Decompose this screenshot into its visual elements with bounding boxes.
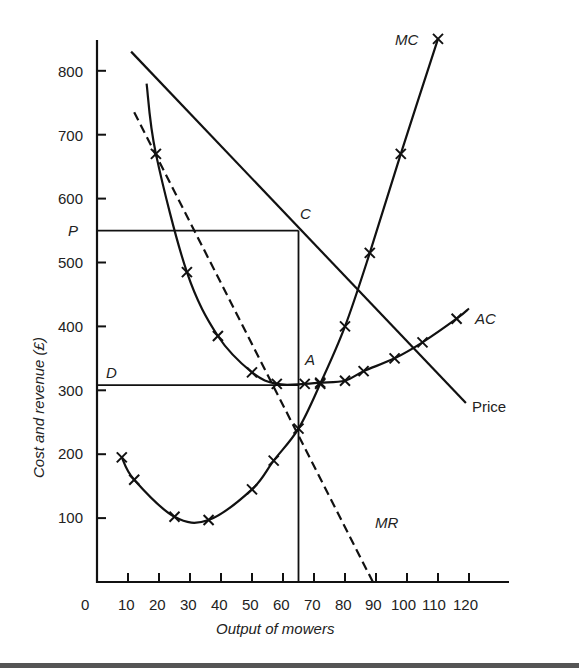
x-tick-label: 40 <box>211 596 228 613</box>
x-tick-label: 50 <box>242 596 259 613</box>
x-tick-labels: 0 10 20 30 40 50 60 70 80 90 100 110 120 <box>81 596 478 613</box>
y-tick-label: 300 <box>58 382 83 399</box>
x-tick-label: 0 <box>81 596 89 613</box>
x-tick-label: 110 <box>422 596 446 613</box>
x-tick-label: 60 <box>273 596 290 613</box>
page-bottom-rule <box>0 663 579 668</box>
ac-label: AC <box>474 310 496 327</box>
x-tick-label: 10 <box>118 596 135 613</box>
y-tick-labels: 100 200 300 400 500 600 700 800 <box>58 63 83 526</box>
y-axis-ticks <box>97 71 106 518</box>
a-label: A <box>304 351 315 368</box>
x-axis-title: Output of mowers <box>216 620 335 637</box>
c-label: C <box>300 205 311 222</box>
y-tick-label: 200 <box>58 445 83 462</box>
guide-lines <box>97 231 299 582</box>
x-tick-label: 80 <box>335 596 352 613</box>
y-tick-label: 800 <box>58 63 83 80</box>
y-tick-label: 500 <box>58 254 83 271</box>
d-label: D <box>106 364 117 381</box>
axes <box>96 40 509 583</box>
y-axis-title: Cost and revenue (£) <box>30 337 47 478</box>
x-tick-label: 70 <box>304 596 321 613</box>
y-tick-label: 700 <box>58 127 83 144</box>
p-label: P <box>68 222 78 239</box>
x-tick-label: 20 <box>149 596 166 613</box>
y-tick-label: 600 <box>58 190 83 207</box>
x-tick-label: 30 <box>180 596 197 613</box>
marginal-cost-curve <box>122 39 438 523</box>
y-tick-label: 100 <box>58 509 83 526</box>
x-tick-label: 120 <box>453 596 478 613</box>
price-label: Price <box>472 398 506 415</box>
y-tick-label: 400 <box>58 318 83 335</box>
x-tick-label: 100 <box>391 596 416 613</box>
mr-label: MR <box>375 514 398 531</box>
mc-label: MC <box>395 31 418 48</box>
cost-revenue-chart: MC AC MR Price P C D A 0 10 20 30 40 50 … <box>0 0 579 668</box>
x-tick-label: 90 <box>365 596 382 613</box>
